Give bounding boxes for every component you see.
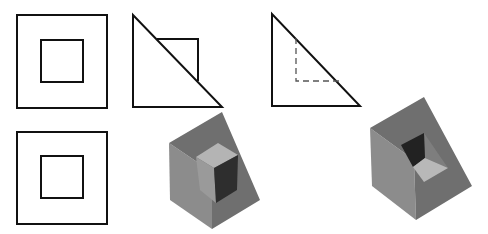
triangle-outline bbox=[133, 15, 222, 107]
inner-square bbox=[41, 40, 83, 82]
wedge-with-protruding-cube bbox=[169, 112, 260, 229]
diagram-canvas bbox=[0, 0, 488, 234]
triangle-outline bbox=[272, 14, 360, 106]
top-view-square-in-square bbox=[17, 132, 107, 224]
outer-square bbox=[17, 132, 107, 224]
side-view-triangle-with-square bbox=[133, 15, 222, 107]
side-view-triangle-with-hidden-lines bbox=[272, 14, 360, 106]
outer-square bbox=[17, 15, 107, 108]
wedge-with-cubic-cavity bbox=[370, 97, 472, 220]
front-view-square-in-square bbox=[17, 15, 107, 108]
inner-square bbox=[41, 156, 83, 198]
